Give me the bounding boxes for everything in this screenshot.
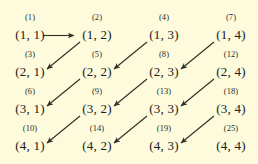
pair-label: (3, 3) — [136, 101, 192, 117]
index-label: (18) — [203, 86, 258, 96]
pair-label: (1, 3) — [136, 27, 192, 43]
index-label: (3) — [2, 49, 58, 59]
index-label: (9) — [69, 86, 125, 96]
index-label: (13) — [136, 86, 192, 96]
pair-label: (1, 2) — [69, 27, 125, 43]
pair-label: (4, 4) — [203, 138, 258, 154]
index-label: (6) — [2, 86, 58, 96]
index-label: (10) — [2, 123, 58, 133]
pair-label: (4, 2) — [69, 138, 125, 154]
pair-label: (3, 4) — [203, 101, 258, 117]
pair-label: (2, 4) — [203, 64, 258, 80]
index-label: (1) — [2, 12, 58, 22]
pair-label: (4, 3) — [136, 138, 192, 154]
pair-label: (2, 2) — [69, 64, 125, 80]
index-label: (2) — [69, 12, 125, 22]
pair-label: (1, 1) — [2, 27, 58, 43]
index-label: (14) — [69, 123, 125, 133]
pair-label: (2, 1) — [2, 64, 58, 80]
index-label: (7) — [203, 12, 258, 22]
pair-label: (1, 4) — [203, 27, 258, 43]
pair-label: (2, 3) — [136, 64, 192, 80]
cantor-enumeration-diagram: (1) (1, 1) (2) (1, 2) (4) (1, 3) (7) (1,… — [0, 0, 258, 164]
index-label: (25) — [203, 123, 258, 133]
pair-label: (3, 2) — [69, 101, 125, 117]
index-label: (4) — [136, 12, 192, 22]
index-label: (5) — [69, 49, 125, 59]
pair-label: (3, 1) — [2, 101, 58, 117]
index-label: (8) — [136, 49, 192, 59]
index-label: (12) — [203, 49, 258, 59]
pair-label: (4, 1) — [2, 138, 58, 154]
index-label: (19) — [136, 123, 192, 133]
